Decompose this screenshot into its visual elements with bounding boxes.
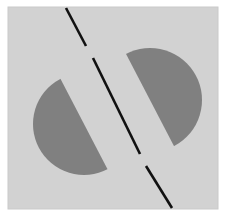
split-disc-figure <box>0 0 227 223</box>
figure-canvas <box>0 0 227 223</box>
